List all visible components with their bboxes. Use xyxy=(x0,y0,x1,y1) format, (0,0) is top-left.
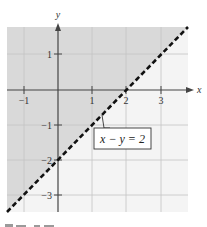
x-tick-label: 1 xyxy=(90,95,95,106)
y-tick-label: −2 xyxy=(41,155,52,166)
x-axis-label: x xyxy=(196,84,202,95)
y-axis-label: y xyxy=(55,9,61,20)
equation-label: x − y = 2 xyxy=(99,132,145,146)
y-tick-label: −1 xyxy=(41,120,52,131)
x-axis-arrow-icon xyxy=(186,87,194,93)
y-tick-label: −3 xyxy=(41,190,52,201)
x-tick-label: 3 xyxy=(159,95,164,106)
y-tick-label: 1 xyxy=(47,49,52,60)
x-tick-label: −1 xyxy=(19,95,30,106)
x-tick-label: 2 xyxy=(124,95,129,106)
inequality-graph: −1 1 2 3 1 −1 −2 −3 x y x − y = 2 xyxy=(0,0,207,227)
caption-remnant xyxy=(5,224,54,227)
